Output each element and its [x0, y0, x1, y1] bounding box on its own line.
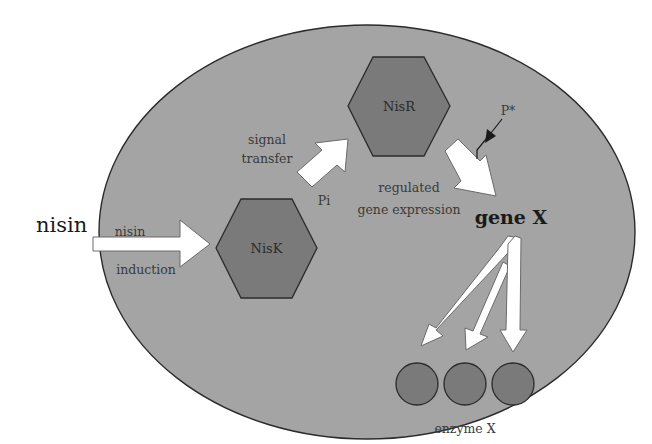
induction-arrow-bottom-label: induction: [116, 262, 176, 277]
induction-arrow-top-label: nisin: [115, 224, 146, 239]
enzyme-circle-icon: [492, 363, 534, 405]
nisr-label: NisR: [383, 99, 416, 114]
enzyme-circle-icon: [396, 363, 438, 405]
promoter-label: P*: [501, 103, 516, 118]
enzyme-circle-icon: [444, 363, 486, 405]
phosphate-label: Pi: [318, 193, 330, 208]
external-nisin-label: nisin: [36, 213, 87, 237]
regulated-label: regulated: [378, 180, 439, 195]
gene-x-label: gene X: [475, 206, 548, 228]
signal-label: signal: [248, 132, 286, 147]
transfer-label: transfer: [242, 151, 293, 166]
nisk-label: NisK: [251, 241, 283, 256]
nisin-induction-diagram: nisin nisin induction NisK signal transf…: [0, 0, 652, 444]
gene-expression-label: gene expression: [357, 202, 460, 217]
enzyme-x-label: enzyme X: [434, 421, 495, 436]
enzyme-x-group: [396, 363, 534, 405]
